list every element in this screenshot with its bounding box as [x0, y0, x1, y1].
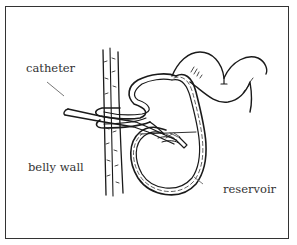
reservoir-diagram	[0, 0, 297, 245]
nipple-valve-shape	[140, 132, 196, 148]
belly-wall-label: belly wall	[28, 160, 84, 174]
reservoir-label: reservoir	[223, 182, 276, 196]
intestine-shape	[172, 52, 267, 112]
reservoir-leader-line	[194, 177, 203, 184]
reservoir-pouch-shape	[131, 75, 206, 195]
catheter-label: catheter	[26, 61, 75, 75]
conduit-shape	[96, 74, 176, 134]
catheter-leader-line	[47, 82, 64, 96]
